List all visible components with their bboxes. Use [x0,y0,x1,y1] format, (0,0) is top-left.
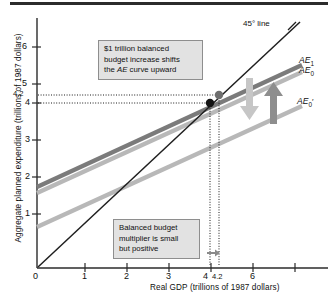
callout-multiplier-line1: Balanced budget [119,223,195,234]
callout-multiplier-line2: multiplier is small [119,234,195,245]
curve-label-AE0-prime-mark: ′ [312,97,314,106]
y-tick-label-3: 3 [25,134,30,144]
y-tick-label-4-2: 4.2 [13,89,24,98]
forty-five-degree-line-label: 45° line [243,19,270,28]
callout-budget-increase-line2: budget increase shifts [104,55,198,66]
curve-label-AE1-text: AE [299,55,310,65]
curve-label-AE0-text: AE [299,65,310,75]
point-equilibrium-old [206,99,214,107]
x-axis-title: Real GDP (trillions of 1987 dollars) [150,283,280,292]
x-tick-label-4-2: 4.2 [212,272,223,281]
callout-budget-increase-line3-pre: the [104,65,117,74]
y-tick-label-2: 2 [25,171,30,181]
x-tick-label-3: 3 [166,271,171,281]
y-tick-label-4: 4 [25,97,30,107]
y-tick-label-5: 5 [22,78,27,88]
point-equilibrium-new [215,91,223,99]
x-tick-label-0: 0 [33,271,38,281]
x-tick-label-2: 2 [124,271,129,281]
x-tick-label-1: 1 [82,271,87,281]
curve-label-AE0-prime-text: AE [297,96,308,106]
curve-label-AE0-prime: AE0′ [297,96,314,108]
callout-budget-increase: $1 trillion balanced budget increase shi… [98,40,203,80]
y-axis-title: Aggregate planned expenditure (trillions… [14,43,23,243]
figure-container: Aggregate planned expenditure (trillions… [0,0,332,301]
y-tick-label-6: 6 [22,41,27,51]
y-tick-label-1: 1 [25,208,30,218]
x-tick-label-5: 6 [250,271,255,281]
x-tick-label-4: 4 [203,271,208,281]
curve-label-AE0: AE0 [299,65,314,77]
callout-budget-increase-line3-post: curve upward [127,65,176,74]
series-AE0-line [37,72,302,193]
multiplier-span-arrow [207,250,220,257]
callout-multiplier: Balanced budget multiplier is small but … [113,219,200,259]
callout-multiplier-line3: but positive [119,244,195,255]
callout-budget-increase-line3-em: AE [117,65,127,74]
callout-budget-increase-line1: $1 trillion balanced [104,44,198,55]
curve-label-AE0-sub: 0 [310,70,314,77]
callout-budget-increase-line3: the AE curve upward [104,65,198,76]
